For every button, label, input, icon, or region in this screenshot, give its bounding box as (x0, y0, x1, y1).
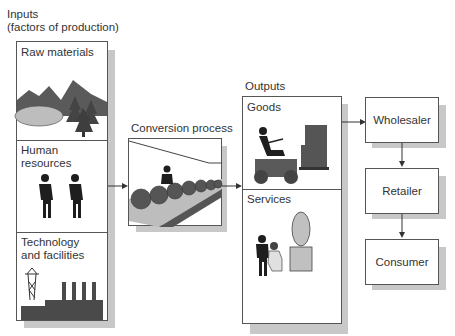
goods-label: Goods (247, 101, 281, 114)
outputs-divider (243, 189, 341, 190)
two-people-icon (17, 164, 107, 224)
services-label: Services (247, 193, 291, 206)
arrow-conversion-to-outputs (222, 182, 242, 190)
outputs-box: Goods Services (242, 96, 342, 324)
inputs-box: Raw materials Human resources Technology… (16, 41, 108, 321)
arrow-retailer-to-consumer (398, 214, 406, 238)
wholesaler-box: Wholesaler (365, 97, 439, 143)
raw-materials-label: Raw materials (21, 46, 94, 59)
outputs-title: Outputs (245, 80, 285, 93)
power-tower-factory-icon (17, 264, 107, 324)
barber-customer-icon (243, 209, 341, 319)
arrow-outputs-to-wholesaler (342, 118, 366, 126)
conveyor-worker-icon (129, 139, 223, 227)
inputs-divider-1 (17, 140, 107, 141)
consumer-box: Consumer (365, 239, 439, 285)
inputs-title-line2: (factors of production) (7, 21, 119, 34)
technology-label-line2: and facilities (21, 249, 84, 262)
inputs-title: Inputs (factors of production) (7, 8, 119, 34)
wholesaler-label: Wholesaler (366, 114, 438, 126)
arrow-wholesaler-to-retailer (398, 143, 406, 167)
consumer-label: Consumer (366, 256, 438, 268)
technology-facilities-label: Technology and facilities (21, 236, 84, 262)
technology-label-line1: Technology (21, 236, 84, 249)
retailer-label: Retailer (366, 185, 438, 197)
conversion-box (128, 138, 222, 226)
inputs-divider-2 (17, 232, 107, 233)
conversion-title: Conversion process (131, 122, 233, 135)
arrow-inputs-to-conversion (108, 182, 128, 190)
mountains-trees-lake-icon (17, 70, 107, 140)
retailer-box: Retailer (365, 168, 439, 214)
inputs-title-line1: Inputs (7, 8, 119, 21)
forklift-boxes-icon (243, 117, 341, 192)
